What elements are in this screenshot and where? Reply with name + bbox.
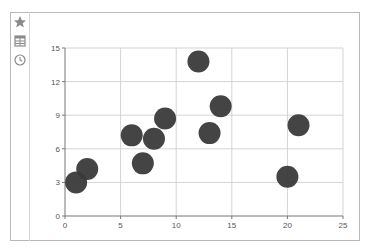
x-tick-label: 25 xyxy=(339,221,348,230)
y-tick-label: 12 xyxy=(51,78,60,87)
data-point xyxy=(210,95,232,117)
data-point xyxy=(199,122,221,144)
data-point xyxy=(143,128,165,150)
data-point xyxy=(154,108,176,130)
x-tick-label: 20 xyxy=(283,221,292,230)
y-tick-label: 15 xyxy=(51,44,60,53)
y-tick-label: 6 xyxy=(56,145,61,154)
y-tick-label: 0 xyxy=(56,212,61,221)
x-tick-label: 5 xyxy=(118,221,123,230)
y-tick-label: 3 xyxy=(56,178,61,187)
x-tick-label: 15 xyxy=(227,221,236,230)
x-tick-label: 0 xyxy=(63,221,68,230)
data-point xyxy=(288,114,310,136)
data-point xyxy=(76,158,98,180)
data-point xyxy=(132,152,154,174)
data-point xyxy=(121,124,143,146)
data-point xyxy=(187,50,209,72)
data-point xyxy=(276,166,298,188)
y-tick-label: 9 xyxy=(56,111,61,120)
x-tick-label: 10 xyxy=(172,221,181,230)
scatter-chart: 051015202503691215 xyxy=(0,0,369,251)
